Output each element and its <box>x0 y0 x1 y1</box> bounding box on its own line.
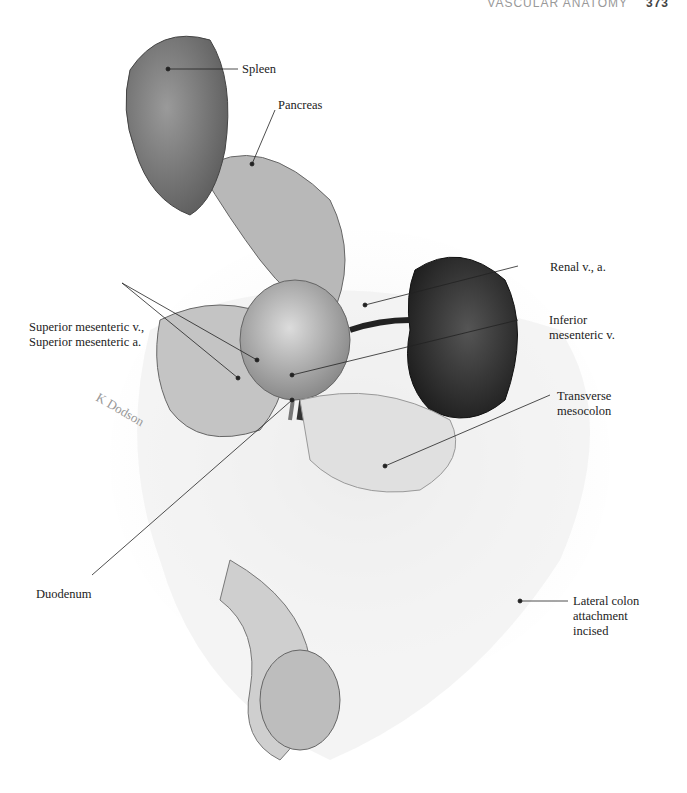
label-lateral-colon: Lateral colon attachment incised <box>573 594 639 639</box>
label-renal: Renal v., a. <box>550 260 606 275</box>
label-line: Superior mesenteric v., <box>29 320 144 335</box>
label-line: incised <box>573 624 639 639</box>
label-duodenum: Duodenum <box>36 587 92 602</box>
label-pancreas: Pancreas <box>278 98 322 113</box>
label-line: Transverse <box>557 389 611 404</box>
label-line: Inferior <box>549 313 615 328</box>
label-line: mesocolon <box>557 404 611 419</box>
label-spleen: Spleen <box>242 62 276 77</box>
label-line: Lateral colon <box>573 594 639 609</box>
label-inferior-mesenteric: Inferior mesenteric v. <box>549 313 615 343</box>
label-superior-mesenteric: Superior mesenteric v., Superior mesente… <box>29 320 144 350</box>
label-line: Superior mesenteric a. <box>29 335 144 350</box>
label-transverse-mesocolon: Transverse mesocolon <box>557 389 611 419</box>
label-line: attachment <box>573 609 639 624</box>
label-line: mesenteric v. <box>549 328 615 343</box>
